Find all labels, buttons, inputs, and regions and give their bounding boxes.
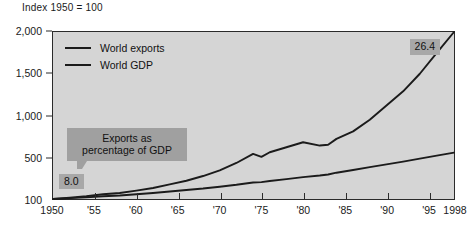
y-tick-label: 1,000 [16, 110, 42, 122]
y-tick-label: 1,500 [16, 67, 42, 79]
callout-box: Exports as percentage of GDP [67, 128, 187, 161]
legend-line-icon [65, 47, 91, 49]
x-tick-label: '95 [422, 204, 436, 216]
x-tick-label: '55 [87, 204, 101, 216]
x-tick-label: '90 [380, 204, 394, 216]
x-tick-mark [346, 193, 347, 199]
legend-item-world-exports: World exports [65, 40, 165, 55]
legend-item-world-gdp: World GDP [65, 57, 165, 72]
legend: World exports World GDP [65, 40, 165, 74]
x-tick-mark [304, 193, 305, 199]
legend-item-label: World exports [100, 42, 165, 54]
start-value-badge: 8.0 [59, 174, 84, 190]
callout-line-2: percentage of GDP [71, 144, 183, 156]
end-value-badge: 26.4 [410, 39, 440, 55]
x-tick-mark [221, 193, 222, 199]
y-tick-label: 500 [24, 152, 42, 164]
callout-line-1: Exports as [71, 132, 183, 144]
x-tick-label: 1998 [443, 204, 466, 216]
y-tick-label: 2,000 [16, 25, 42, 37]
y-axis: 2,0001,5001,000500100 [0, 0, 52, 234]
x-tick-mark [95, 193, 96, 199]
legend-line-icon [65, 64, 91, 66]
x-tick-label: '60 [129, 204, 143, 216]
x-tick-label: '80 [297, 204, 311, 216]
plot-area: World exports World GDP 26.4 8.0 Exports… [52, 31, 455, 200]
x-tick-mark [388, 193, 389, 199]
x-axis: 1950'55'60'65'70'75'80'85'90'951998 [0, 204, 473, 226]
x-tick-mark [430, 193, 431, 199]
exports-share-callout: Exports as percentage of GDP [67, 128, 187, 161]
x-tick-mark [137, 193, 138, 199]
x-tick-mark [179, 193, 180, 199]
x-tick-mark [262, 193, 263, 199]
x-tick-label: 1950 [40, 204, 63, 216]
callout-pointer-icon [77, 161, 87, 169]
x-tick-label: '85 [338, 204, 352, 216]
x-tick-label: '65 [171, 204, 185, 216]
x-tick-label: '70 [213, 204, 227, 216]
x-tick-label: '75 [255, 204, 269, 216]
legend-item-label: World GDP [100, 59, 153, 71]
